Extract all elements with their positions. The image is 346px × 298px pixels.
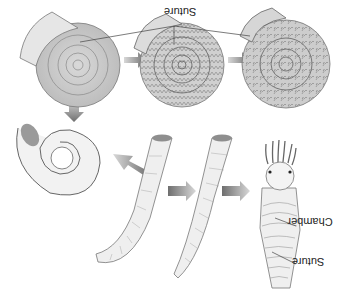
diagram-canvas: Suture Chamber Suture (0, 0, 346, 298)
label-layer: Suture Chamber Suture (0, 0, 346, 298)
chamber-label: Chamber (287, 216, 333, 228)
suture-label-bottom: Suture (292, 256, 324, 268)
suture-label-top: Suture (164, 6, 196, 18)
